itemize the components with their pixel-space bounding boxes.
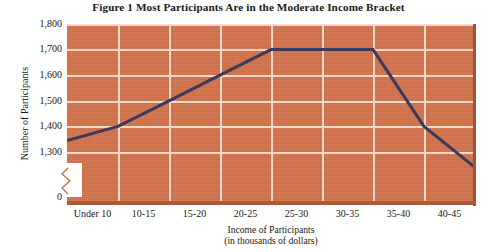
x-tick-label: Under 10 (67, 208, 118, 220)
chart-title: Figure 1 Most Participants Are in the Mo… (0, 1, 497, 13)
y-tick-label: 1,400 (22, 121, 62, 131)
x-tick-label: 40-45 (424, 208, 475, 220)
y-axis-tick-labels: 1,800 1,700 1,600 1,500 1,400 1,300 0 (18, 0, 62, 252)
panel-edge-right (473, 24, 476, 206)
y-tick-label: 1,700 (22, 44, 62, 54)
y-tick-label: 1,500 (22, 96, 62, 106)
panel-edge-bottom (67, 201, 476, 205)
plot-area (67, 24, 475, 203)
y-tick-label: 1,300 (22, 147, 62, 157)
x-tick-label: 10-15 (118, 208, 169, 220)
x-tick-label: 25-30 (271, 208, 322, 220)
x-tick-label: 35-40 (373, 208, 424, 220)
x-axis-tick-labels: Under 10 10-15 15-20 20-25 25-30 30-35 3… (67, 208, 475, 224)
data-series-line (67, 24, 475, 203)
axis-break-icon (60, 163, 82, 197)
x-tick-label: 30-35 (322, 208, 373, 220)
x-axis-title-line1: Income of Participants (67, 224, 475, 235)
x-tick-label: 15-20 (169, 208, 220, 220)
y-tick-label: 1,600 (22, 70, 62, 80)
y-tick-label: 0 (22, 192, 62, 202)
figure-container: Figure 1 Most Participants Are in the Mo… (0, 0, 497, 252)
x-axis-title: Income of Participants (in thousands of … (67, 224, 475, 246)
x-axis-title-line2: (in thousands of dollars) (67, 235, 475, 246)
series-polyline (67, 50, 475, 168)
x-tick-label: 20-25 (220, 208, 271, 220)
y-tick-label: 1,800 (22, 19, 62, 29)
